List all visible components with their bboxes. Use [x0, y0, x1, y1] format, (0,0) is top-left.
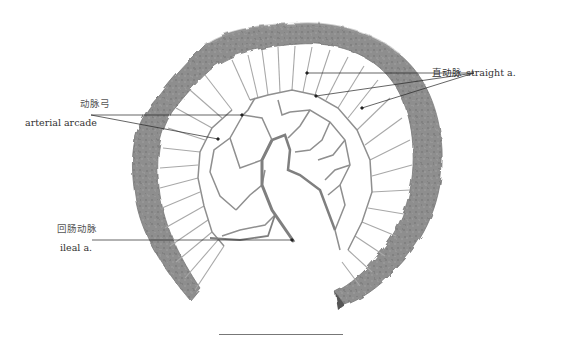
label-ileal-artery-cn: 回肠动脉 [57, 223, 97, 235]
scale-bar [219, 334, 343, 335]
arterial-arcades [198, 90, 372, 250]
label-arterial-arcade-cn: 动脉弓 [65, 98, 110, 110]
label-straight-arteries: 直动脉straight a. [432, 67, 516, 79]
label-straight-arteries-cn: 直动脉 [432, 67, 462, 78]
ileal-artery-trunk [210, 135, 335, 242]
label-straight-arteries-en: straight a. [466, 67, 516, 78]
label-ileal-artery-en: ileal a. [60, 242, 92, 254]
straight-arteries [160, 46, 412, 290]
specimen-figure [0, 0, 583, 340]
label-arterial-arcade-en: arterial arcade [25, 117, 97, 129]
